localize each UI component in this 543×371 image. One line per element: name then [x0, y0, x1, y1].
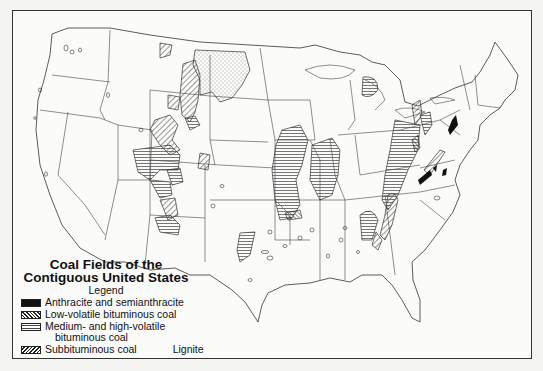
- legend-item-medium-high-volatile: Medium- and high-volatile bituminous coa…: [16, 321, 256, 343]
- medium-high-volatile-swatch-icon: [21, 323, 41, 331]
- great-lakes: [305, 65, 455, 130]
- legend-heading: Legend: [16, 284, 196, 296]
- legend-item-subbituminous: Subbituminous coal Lignite: [16, 344, 256, 355]
- map-title-line-2: Contiguous United States: [16, 271, 196, 284]
- legend-label: Low-volatile bituminous coal: [45, 309, 176, 320]
- low-volatile-swatch-icon: [21, 311, 41, 319]
- legend-label-line-2: bituminous coal: [45, 331, 128, 343]
- subbituminous-swatch-icon: [21, 346, 41, 354]
- map-legend: Coal Fields of the Contiguous United Sta…: [16, 258, 256, 355]
- anthracite-swatch-icon: [21, 299, 41, 307]
- legend-label-lignite: Lignite: [173, 344, 204, 355]
- legend-label: Medium- and high-volatile bituminous coa…: [45, 321, 165, 343]
- lignite-fields: [193, 50, 250, 102]
- legend-item-low-volatile: Low-volatile bituminous coal: [16, 309, 256, 320]
- legend-label: Subbituminous coal: [45, 344, 137, 355]
- legend-label: Anthracite and semianthracite: [45, 297, 184, 308]
- legend-item-anthracite: Anthracite and semianthracite: [16, 297, 256, 308]
